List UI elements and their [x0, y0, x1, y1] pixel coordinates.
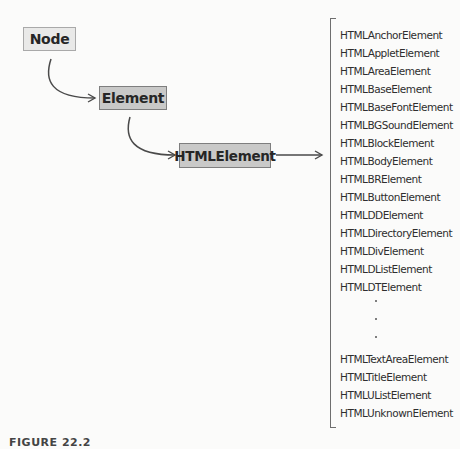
list-item: HTMLBodyElement [340, 152, 453, 170]
list-item: HTMLUListElement [340, 386, 453, 404]
list-item: HTMLButtonElement [340, 188, 453, 206]
list-item: HTMLBlockElement [340, 134, 453, 152]
list-item: HTMLTitleElement [340, 368, 453, 386]
ellipsis-dot [340, 296, 453, 314]
ellipsis-dot [340, 332, 453, 350]
list-item: HTMLDirectoryElement [340, 224, 453, 242]
subclass-list: HTMLAnchorElement HTMLAppletElement HTML… [340, 26, 453, 422]
list-item: HTMLTextAreaElement [340, 350, 453, 368]
list-item: HTMLDivElement [340, 242, 453, 260]
list-item: HTMLAppletElement [340, 44, 453, 62]
htmlelement-box: HTMLElement [179, 143, 271, 168]
list-item: HTMLDListElement [340, 260, 453, 278]
list-item: HTMLAreaElement [340, 62, 453, 80]
list-item: HTMLUnknownElement [340, 404, 453, 422]
list-item: HTMLBaseElement [340, 80, 453, 98]
list-item: HTMLDTElement [340, 278, 453, 296]
arrow-node-to-element [49, 59, 95, 98]
arrow-element-to-htmlelement [128, 117, 175, 155]
figure-caption: FIGURE 22.2 [9, 436, 91, 449]
list-item: HTMLBRElement [340, 170, 453, 188]
node-label: Node [30, 31, 70, 47]
htmlelement-label: HTMLElement [174, 148, 276, 164]
subclass-bracket [330, 18, 336, 428]
list-item: HTMLDDElement [340, 206, 453, 224]
element-label: Element [102, 90, 165, 106]
ellipsis-dot [340, 314, 453, 332]
element-box: Element [99, 86, 167, 110]
list-item: HTMLAnchorElement [340, 26, 453, 44]
node-box: Node [23, 27, 76, 51]
list-item: HTMLBGSoundElement [340, 116, 453, 134]
list-item: HTMLBaseFontElement [340, 98, 453, 116]
